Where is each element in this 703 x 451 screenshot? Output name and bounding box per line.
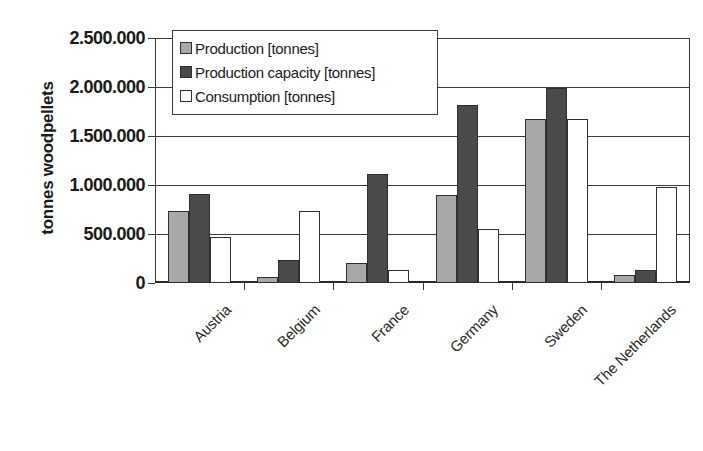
legend-swatch-icon — [180, 90, 192, 102]
y-axis-tick — [148, 87, 155, 88]
y-axis-tick — [148, 283, 155, 284]
bar — [478, 229, 499, 283]
bar-group — [525, 38, 588, 283]
bar-group — [614, 38, 677, 283]
legend-item: Consumption [tonnes] — [180, 84, 430, 108]
x-axis-category-label: France — [368, 301, 412, 345]
bar — [525, 119, 546, 283]
y-axis-tick-label: 2.500.000 — [35, 28, 145, 49]
bar — [367, 174, 388, 283]
gridline — [155, 234, 690, 235]
bar — [614, 275, 635, 283]
bar — [299, 211, 320, 283]
y-axis-tick-labels: 0500.0001.000.0001.500.0002.000.0002.500… — [30, 0, 145, 451]
bar — [457, 105, 478, 283]
bar — [436, 195, 457, 283]
y-axis-tick-label: 500.000 — [35, 224, 145, 245]
x-axis-category-labels: AustriaBelgiumFranceGermanySwedenThe Net… — [155, 283, 690, 451]
bar — [388, 270, 409, 283]
legend-item: Production [tonnes] — [180, 36, 430, 60]
legend-label: Production [tonnes] — [195, 40, 319, 57]
y-axis-tick — [148, 38, 155, 39]
y-axis-tick-label: 1.500.000 — [35, 126, 145, 147]
bar — [635, 270, 656, 283]
legend-swatch-icon — [180, 66, 192, 78]
bar-group — [436, 38, 499, 283]
bar — [656, 187, 677, 283]
gridline — [155, 185, 690, 186]
plot-right-border — [689, 38, 690, 283]
legend-swatch-icon — [180, 42, 192, 54]
y-axis-tick — [148, 136, 155, 137]
x-axis-category-label: Germany — [446, 301, 501, 356]
bar — [210, 237, 231, 283]
y-axis-line — [155, 38, 156, 283]
bar — [346, 263, 367, 283]
bar — [567, 119, 588, 283]
bar — [189, 194, 210, 283]
x-axis-category-label: Austria — [190, 301, 234, 345]
x-axis-category-label: Sweden — [541, 301, 591, 351]
x-axis-category-label: Belgium — [273, 301, 322, 350]
y-axis-tick — [148, 234, 155, 235]
y-axis-tick-label: 2.000.000 — [35, 77, 145, 98]
y-axis-tick-label: 0 — [35, 273, 145, 294]
y-axis-tick-label: 1.000.000 — [35, 175, 145, 196]
bar — [168, 211, 189, 283]
bar-chart: tonnes woodpellets 0500.0001.000.0001.50… — [0, 0, 703, 451]
bar — [546, 88, 567, 283]
legend-item: Production capacity [tonnes] — [180, 60, 430, 84]
legend-label: Consumption [tonnes] — [195, 88, 335, 105]
legend: Production [tonnes]Production capacity [… — [172, 30, 438, 115]
bar — [278, 260, 299, 283]
gridline — [155, 136, 690, 137]
legend-label: Production capacity [tonnes] — [195, 64, 375, 81]
x-axis-category-label: The Netherlands — [591, 301, 679, 389]
y-axis-tick — [148, 185, 155, 186]
